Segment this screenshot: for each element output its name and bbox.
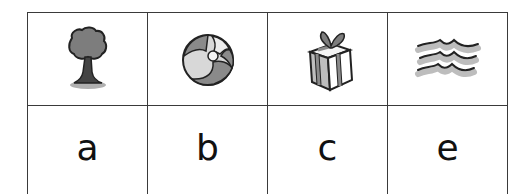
picture-cell-ball bbox=[148, 13, 268, 106]
gift-box-icon bbox=[288, 24, 368, 94]
letter-cell-3: c bbox=[268, 106, 388, 195]
waves-icon bbox=[408, 24, 488, 94]
beach-ball-icon bbox=[168, 24, 248, 94]
letter-row: a b c e bbox=[28, 106, 508, 195]
picture-cell-waves bbox=[388, 13, 508, 106]
letter-cell-4: e bbox=[388, 106, 508, 195]
letter-a: a bbox=[76, 130, 98, 166]
picture-row bbox=[28, 13, 508, 106]
letter-b: b bbox=[196, 130, 219, 166]
letter-c: c bbox=[318, 130, 338, 166]
letter-picture-grid: a b c e bbox=[27, 12, 508, 194]
letter-cell-1: a bbox=[28, 106, 148, 195]
letter-e: e bbox=[436, 130, 458, 166]
tree-icon bbox=[48, 24, 128, 94]
picture-cell-gift bbox=[268, 13, 388, 106]
letter-cell-2: b bbox=[148, 106, 268, 195]
picture-cell-tree bbox=[28, 13, 148, 106]
